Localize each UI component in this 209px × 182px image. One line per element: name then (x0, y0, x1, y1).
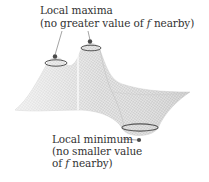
left-max-leader (55, 31, 62, 55)
maxima-subtitle-suffix: nearby) (151, 17, 195, 29)
min-dot (137, 138, 141, 142)
right-max-leader (88, 31, 90, 40)
minimum-line2: (no smaller value (52, 145, 142, 158)
maxima-subtitle-prefix: (no greater value of (40, 17, 147, 29)
minimum-line3-suffix: nearby) (69, 157, 113, 169)
minimum-title: Local minimum (52, 133, 133, 146)
maxima-title: Local maxima (40, 4, 113, 17)
minimum-line3-prefix: of (52, 157, 65, 169)
figure-stage: Local maxima (no greater value of f near… (0, 0, 209, 182)
minimum-line3: of f nearby) (52, 157, 113, 170)
maxima-subtitle: (no greater value of f nearby) (40, 17, 194, 30)
